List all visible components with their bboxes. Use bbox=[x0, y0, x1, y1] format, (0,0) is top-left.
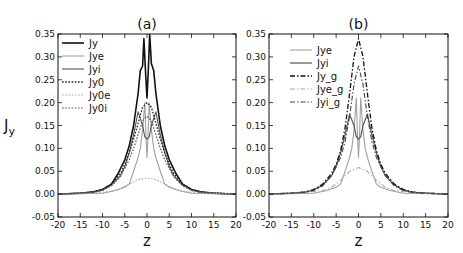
x-tick-label: -5 bbox=[120, 220, 129, 230]
x-tick-label: 0 bbox=[356, 220, 362, 230]
y-tick-label: 0.15 bbox=[246, 121, 266, 131]
series-line-jy bbox=[58, 34, 236, 194]
legend-label: Jy bbox=[88, 38, 98, 49]
y-tick-label: 0.30 bbox=[35, 52, 55, 62]
figure: -20-15-10-505101520-0.050.000.050.100.15… bbox=[0, 0, 463, 253]
series-group bbox=[269, 39, 448, 195]
legend-label: Jy0e bbox=[88, 90, 110, 101]
x-tick-label: 10 bbox=[186, 220, 198, 230]
x-tick-label: -10 bbox=[95, 220, 110, 230]
x-tick-label: 5 bbox=[166, 220, 172, 230]
y-tick-label: 0.20 bbox=[35, 98, 55, 108]
legend: JyeJyiJy_gJye_gJyi_g bbox=[290, 45, 343, 109]
panel-title: (b) bbox=[349, 16, 369, 32]
legend-label: Jy0 bbox=[88, 77, 104, 88]
series-line-jye-g bbox=[269, 168, 448, 195]
panel-a: -20-15-10-505101520-0.050.000.050.100.15… bbox=[3, 16, 242, 250]
y-tick-label: 0.35 bbox=[35, 29, 55, 39]
x-tick-label: -5 bbox=[332, 220, 341, 230]
x-tick-label: 10 bbox=[398, 220, 410, 230]
x-axis-label: z bbox=[143, 232, 151, 250]
y-axis-label: Jy bbox=[3, 117, 15, 138]
x-tick-label: -10 bbox=[306, 220, 321, 230]
legend-label: Jye_g bbox=[316, 84, 343, 96]
legend: JyJyeJyiJy0Jy0eJy0i bbox=[62, 38, 110, 114]
series-line-jy-g bbox=[269, 39, 448, 195]
x-axis-label: z bbox=[355, 232, 363, 250]
y-tick-label: 0.25 bbox=[35, 75, 55, 85]
series-group bbox=[58, 34, 236, 194]
series-line-jyi-g bbox=[269, 66, 448, 194]
plot-frame bbox=[58, 34, 236, 217]
x-tick-label: 15 bbox=[420, 220, 431, 230]
legend-label: Jye bbox=[316, 45, 332, 56]
x-tick-label: -15 bbox=[284, 220, 299, 230]
y-tick-label: 0.05 bbox=[246, 166, 266, 176]
plot-frame bbox=[269, 34, 448, 217]
y-tick-label: 0.25 bbox=[246, 75, 266, 85]
y-tick-label: 0.00 bbox=[35, 189, 55, 199]
legend-label: Jyi bbox=[88, 64, 101, 75]
y-tick-label: 0.15 bbox=[35, 121, 55, 131]
legend-label: Jye bbox=[88, 51, 104, 62]
x-tick-label: 20 bbox=[442, 220, 454, 230]
y-tick-label: -0.05 bbox=[32, 212, 55, 222]
y-tick-label: 0.05 bbox=[35, 166, 55, 176]
y-tick-label: 0.30 bbox=[246, 52, 266, 62]
series-line-jy0e bbox=[58, 178, 236, 194]
x-tick-label: 20 bbox=[230, 220, 242, 230]
y-tick-label: 0.10 bbox=[246, 143, 266, 153]
series-line-jye bbox=[269, 98, 448, 194]
legend-label: Jy0i bbox=[88, 103, 107, 114]
y-axis-label-subscript: y bbox=[8, 125, 15, 138]
x-tick-label: 0 bbox=[144, 220, 150, 230]
y-tick-label: 0.20 bbox=[246, 98, 266, 108]
y-tick-label: 0.10 bbox=[35, 143, 55, 153]
legend-label: Jyi bbox=[316, 58, 329, 69]
x-tick-label: 15 bbox=[208, 220, 219, 230]
y-tick-label: 0.00 bbox=[246, 189, 266, 199]
legend-label: Jy_g bbox=[316, 71, 337, 83]
panel-b: -20-15-10-505101520-0.050.000.050.100.15… bbox=[243, 16, 454, 250]
y-tick-label: 0.35 bbox=[246, 29, 266, 39]
series-line-jye bbox=[58, 103, 236, 195]
y-tick-label: -0.05 bbox=[243, 212, 266, 222]
x-tick-label: 5 bbox=[378, 220, 384, 230]
x-tick-label: -15 bbox=[73, 220, 88, 230]
panel-title: (a) bbox=[137, 16, 157, 32]
legend-label: Jyi_g bbox=[316, 97, 340, 109]
